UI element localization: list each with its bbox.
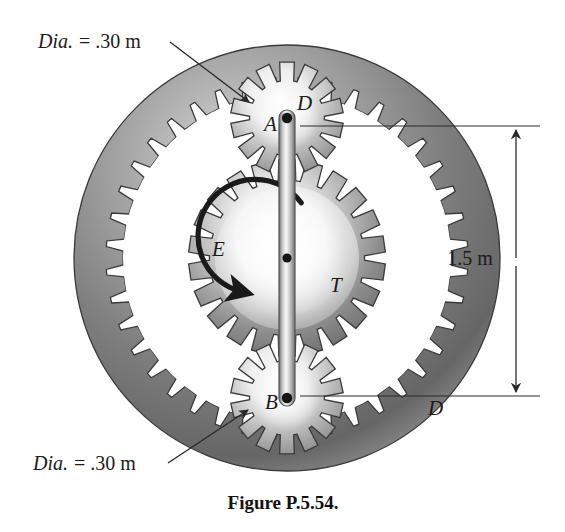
gear-assembly-diagram: 1.5 m Dia.= .30 m Dia.= .30 m A B E T D … [0,0,565,532]
label-gear-b: B [265,390,278,414]
top-diameter-label: Dia.= .30 m [37,30,141,52]
pin-b [282,393,292,403]
pin-a [282,113,292,123]
label-gear-e: E [211,237,225,261]
figure-caption: Figure P.5.54. [228,492,339,513]
top-diameter-value: = .30 m [79,30,141,52]
label-d-bottom: D [427,396,443,420]
bottom-diameter-label: Dia.= .30 m [32,452,136,474]
bottom-diameter-value: = .30 m [74,452,136,474]
label-gear-a: A [262,112,277,136]
label-torque-t: T [330,273,343,297]
carrier-link-bar [279,110,295,406]
top-diameter-italic: Dia. [37,30,73,52]
label-d-top: D [296,91,312,115]
pin-center [282,253,291,262]
bottom-diameter-italic: Dia. [32,452,68,474]
dimension-label: 1.5 m [447,247,493,269]
figure-container: 1.5 m Dia.= .30 m Dia.= .30 m A B E T D … [0,0,565,532]
